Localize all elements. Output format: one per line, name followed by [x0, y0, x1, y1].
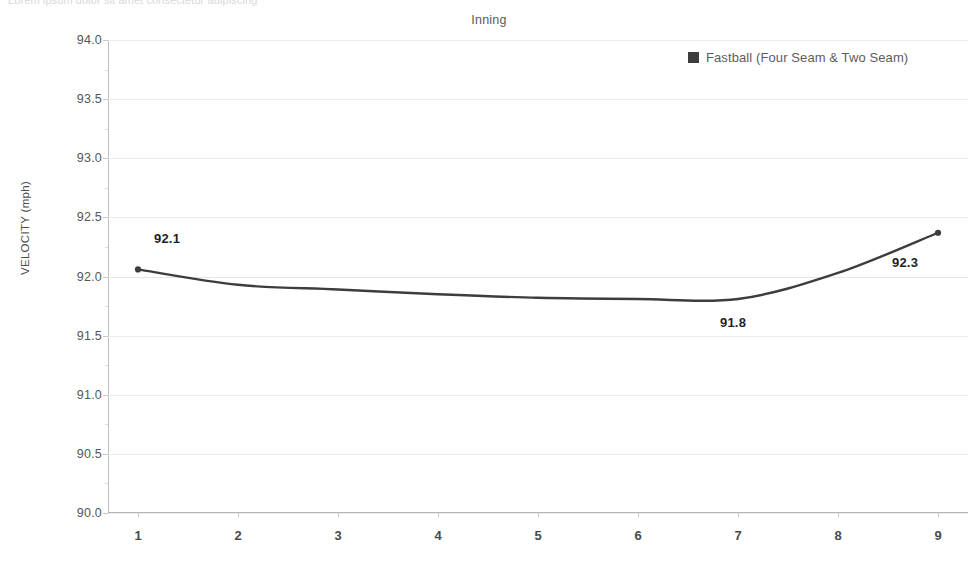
chart-canvas: Lorem ipsum dolor sit amet consectetur a…	[0, 0, 978, 572]
x-tick-mark	[438, 513, 439, 517]
y-tick-label: 91.0	[46, 388, 102, 402]
x-tick-mark	[638, 513, 639, 517]
y-axis-title: VELOCITY (mph)	[19, 158, 31, 298]
data-point-marker	[135, 266, 141, 272]
x-tick-mark	[938, 513, 939, 517]
x-tick-mark	[538, 513, 539, 517]
series-line-fastball	[108, 40, 968, 513]
x-tick-mark	[238, 513, 239, 517]
top-axis-title: Inning	[0, 13, 978, 27]
y-tick-mark	[103, 513, 108, 514]
y-tick-label: 92.5	[46, 210, 102, 224]
y-tick-label: 90.5	[46, 447, 102, 461]
y-tick-label: 93.0	[46, 151, 102, 165]
plot-area: 90.090.591.091.592.092.593.093.594.0 123…	[108, 40, 968, 513]
data-point-label: 91.8	[720, 315, 746, 330]
data-point-marker	[935, 230, 941, 236]
legend[interactable]: Fastball (Four Seam & Two Seam)	[688, 50, 908, 65]
y-tick-label: 92.0	[46, 270, 102, 284]
x-tick-label: 9	[918, 528, 958, 543]
x-tick-mark	[338, 513, 339, 517]
data-point-label: 92.3	[892, 255, 918, 270]
y-tick-label: 91.5	[46, 329, 102, 343]
x-tick-label: 8	[818, 528, 858, 543]
legend-label-fastball: Fastball (Four Seam & Two Seam)	[706, 50, 908, 65]
y-tick-label: 93.5	[46, 92, 102, 106]
x-tick-label: 6	[618, 528, 658, 543]
series-path	[138, 233, 938, 301]
x-tick-mark	[138, 513, 139, 517]
clipped-header-text: Lorem ipsum dolor sit amet consectetur a…	[8, 0, 528, 6]
x-tick-label: 3	[318, 528, 358, 543]
x-tick-label: 2	[218, 528, 258, 543]
x-tick-label: 5	[518, 528, 558, 543]
legend-swatch-fastball	[688, 52, 699, 63]
y-tick-label: 90.0	[46, 506, 102, 520]
x-tick-mark	[738, 513, 739, 517]
x-tick-label: 4	[418, 528, 458, 543]
series-markers	[135, 230, 941, 273]
x-tick-label: 1	[118, 528, 158, 543]
x-tick-mark	[838, 513, 839, 517]
x-tick-label: 7	[718, 528, 758, 543]
y-tick-label: 94.0	[46, 33, 102, 47]
data-point-label: 92.1	[154, 231, 180, 246]
